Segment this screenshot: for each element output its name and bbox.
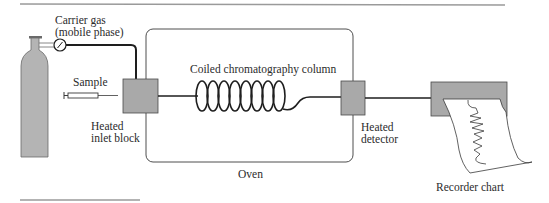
gc-diagram: Carrier gas (mobile phase) Sample Heated… [0, 0, 549, 203]
syringe-icon [64, 92, 118, 99]
heated-inlet-block [123, 79, 158, 113]
pressure-gauge-icon [54, 39, 66, 51]
carrier-gas-label-line1: Carrier gas [55, 14, 124, 26]
top-rule [20, 4, 505, 5]
chart-recorder-icon [431, 82, 532, 173]
inlet-block-label: Heated inlet block [91, 120, 140, 144]
gas-cylinder-icon [21, 36, 54, 157]
carrier-gas-label: Carrier gas (mobile phase) [55, 14, 124, 38]
sample-label: Sample [73, 76, 108, 88]
recorder-label: Recorder chart [436, 181, 504, 193]
detector-label: Heated detector [361, 121, 398, 145]
carrier-gas-pipe [66, 45, 136, 79]
inlet-label-line1: Heated [91, 120, 140, 132]
inlet-label-line2: inlet block [91, 132, 140, 144]
oven-label: Oven [238, 168, 263, 180]
heated-detector [341, 81, 365, 115]
coil-icon [158, 81, 341, 111]
detector-label-line1: Heated [361, 121, 398, 133]
column-label: Coiled chromatography column [190, 63, 336, 75]
carrier-gas-label-line2: (mobile phase) [55, 26, 124, 38]
detector-label-line2: detector [361, 133, 398, 145]
